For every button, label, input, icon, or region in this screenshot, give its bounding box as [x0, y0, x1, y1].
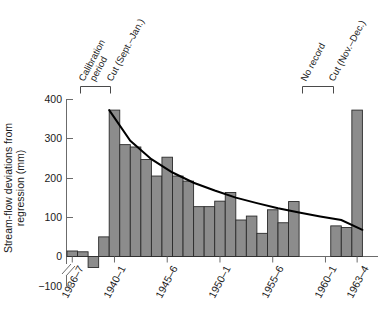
bar	[109, 110, 120, 256]
y-axis-title-line2: regression (mm)	[14, 150, 26, 226]
bar	[130, 147, 141, 257]
annotation-no-record: No record	[298, 41, 327, 83]
bar	[257, 233, 268, 256]
x-axis-tick-labels: 1936–7 1940–1 1945–6 1950–1 1955–6 1960–…	[59, 263, 371, 300]
annotation-bracket-no-record	[303, 87, 334, 94]
bar	[67, 251, 78, 257]
y-tick-200: 200	[44, 172, 62, 184]
bar	[215, 201, 226, 256]
stream-flow-deviation-chart: Calibration period Cut (Sept.–Jan.) No r…	[0, 0, 390, 326]
x-axis-ticks	[72, 257, 357, 263]
y-axis-title: Stream-flow deviations from regression (…	[2, 123, 26, 253]
bar	[204, 207, 215, 257]
annotation-cut-sept-jan-label: Cut (Sept.–Jan.)	[104, 17, 146, 83]
x-tick-1960-1: 1960–1	[312, 263, 339, 300]
bar	[141, 160, 152, 257]
y-axis-title-line1: Stream-flow deviations from	[2, 123, 14, 253]
bar	[151, 176, 162, 256]
bar	[246, 216, 257, 256]
annotation-cut-nov-dec-label: Cut (Nov.–Dec.)	[326, 18, 367, 83]
bar	[88, 257, 99, 268]
bar	[341, 227, 352, 256]
x-tick-1963-4: 1963–4	[344, 263, 371, 300]
bar	[183, 181, 194, 256]
x-tick-1940-1: 1940–1	[101, 263, 128, 300]
y-tick-neg100: −100	[38, 280, 62, 292]
bar	[331, 226, 342, 257]
annotation-cut-sept-jan: Cut (Sept.–Jan.)	[104, 17, 146, 83]
annotation-bracket-calibration	[81, 87, 111, 94]
y-tick-100: 100	[44, 211, 62, 223]
x-tick-1945-6: 1945–6	[153, 263, 180, 300]
y-axis-ticks	[67, 100, 74, 257]
bar	[278, 223, 289, 257]
y-tick-0: 0	[56, 250, 62, 262]
y-axis-tick-labels: 400 300 200 100 0 −100	[38, 93, 62, 292]
bar	[352, 110, 363, 256]
bar	[99, 237, 110, 257]
bar	[194, 207, 205, 257]
y-tick-400: 400	[44, 93, 62, 105]
y-axis	[62, 99, 75, 286]
x-tick-1936-7: 1936–7	[59, 263, 86, 300]
x-tick-1950-1: 1950–1	[206, 263, 233, 300]
bar	[173, 176, 184, 256]
bar	[78, 252, 89, 257]
bar	[267, 210, 278, 257]
chart-svg: Calibration period Cut (Sept.–Jan.) No r…	[0, 0, 390, 326]
y-tick-300: 300	[44, 132, 62, 144]
annotation-no-record-label: No record	[298, 41, 327, 83]
bar	[225, 193, 236, 257]
bars-group	[67, 110, 362, 267]
bar	[120, 145, 131, 257]
annotation-cut-nov-dec: Cut (Nov.–Dec.)	[326, 18, 367, 83]
x-tick-1955-6: 1955–6	[259, 263, 286, 300]
bar	[236, 220, 247, 257]
